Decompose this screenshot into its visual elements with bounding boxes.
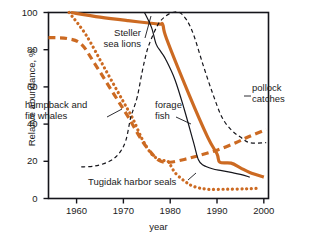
forage-fish-label: foragefish (155, 99, 182, 121)
x-tick-label-2000: 2000 (247, 205, 281, 216)
pollock-catches-label-line: catches (252, 93, 285, 104)
y-tick-label-20: 20 (12, 155, 38, 166)
humpback-fin-whales-label-line: humpback and (25, 99, 87, 110)
chart-figure: Relative abundance, % year 1960197019801… (0, 0, 317, 238)
x-tick-label-1990: 1990 (200, 205, 234, 216)
y-tick-label-0: 0 (12, 193, 38, 204)
steller-sea-lions-label: Stellersea lions (104, 27, 142, 49)
y-tick-label-60: 60 (12, 81, 38, 92)
tugidak-harbor-seals-label-line: Tugidak harbor seals (88, 176, 176, 187)
y-tick-label-100: 100 (12, 7, 38, 18)
humpback-fin-whales-label: humpback andfin whales (25, 99, 87, 121)
humpback-fin-whales-label-line: fin whales (25, 110, 87, 121)
x-tick-label-1960: 1960 (60, 205, 94, 216)
x-axis-title: year (0, 221, 317, 232)
pollock-catches-label: pollockcatches (252, 82, 285, 104)
y-tick-label-80: 80 (12, 44, 38, 55)
forage-fish-label-line: fish (155, 110, 182, 121)
steller-sea-lions-label-line: Steller (104, 27, 142, 38)
steller-sea-lions-label-line: sea lions (104, 38, 142, 49)
forage-fish-label-line: forage (155, 99, 182, 110)
pollock-catches-label-line: pollock (252, 82, 285, 93)
y-axis-title: Relative abundance, % (26, 38, 37, 158)
x-tick-label-1970: 1970 (106, 205, 140, 216)
tugidak-harbor-seals-label: Tugidak harbor seals (88, 176, 176, 187)
x-tick-label-1980: 1980 (153, 205, 187, 216)
